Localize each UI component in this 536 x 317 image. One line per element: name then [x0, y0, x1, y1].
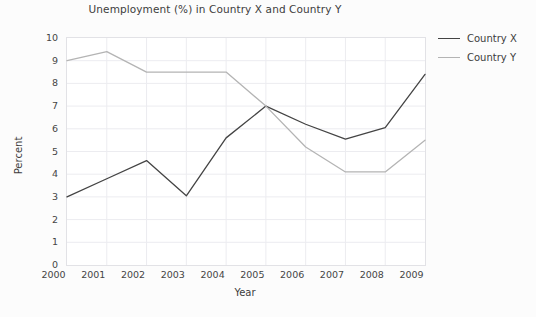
x-axis-label: Year [66, 287, 424, 298]
y-tick-6: 6 [20, 122, 58, 133]
y-tick-1: 1 [20, 236, 58, 247]
legend-item-country-y[interactable]: Country Y [438, 50, 534, 65]
legend-label: Country Y [467, 52, 516, 63]
unemployment-line-chart: Unemployment (%) in Country X and Countr… [0, 0, 536, 317]
plot-area [66, 37, 426, 266]
series-lines [67, 38, 425, 265]
legend-line-icon [438, 57, 460, 58]
legend-item-country-x[interactable]: Country X [438, 31, 534, 46]
y-tick-0: 0 [20, 259, 58, 270]
y-tick-7: 7 [20, 100, 58, 111]
y-tick-5: 5 [20, 145, 58, 156]
y-tick-4: 4 [20, 168, 58, 179]
legend-line-icon [438, 38, 460, 39]
legend-label: Country X [467, 33, 517, 44]
y-tick-8: 8 [20, 77, 58, 88]
y-tick-3: 3 [20, 190, 58, 201]
x-tick-2009: 2009 [387, 269, 437, 280]
y-tick-10: 10 [20, 32, 58, 43]
y-tick-2: 2 [20, 213, 58, 224]
y-tick-9: 9 [20, 54, 58, 65]
chart-legend: Country XCountry Y [438, 31, 534, 69]
